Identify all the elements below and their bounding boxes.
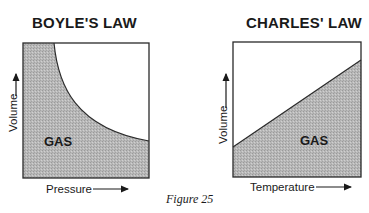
charles-gas-label: GAS xyxy=(300,133,329,148)
boyle-gas-label: GAS xyxy=(44,134,73,149)
boyle-gas-region xyxy=(23,43,149,178)
charles-plot: GAS Volume Temperature xyxy=(217,42,361,193)
boyle-xlabel: Pressure xyxy=(46,183,92,195)
charles-ylabel: Volume xyxy=(217,106,229,144)
gas-laws-diagram: GAS Volume Pressure GAS Volume Temperatu… xyxy=(0,0,369,213)
charles-xlabel: Temperature xyxy=(250,181,315,193)
boyle-plot: GAS Volume Pressure xyxy=(7,43,149,195)
figure-caption: Figure 25 xyxy=(166,192,213,207)
charles-gas-region xyxy=(233,60,361,177)
boyle-ylabel: Volume xyxy=(7,94,19,132)
